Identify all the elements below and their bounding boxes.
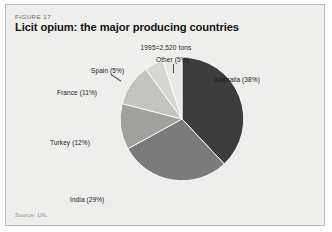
slice-label-india: India (29%) bbox=[70, 196, 104, 203]
slice-label-turkey: Turkey (12%) bbox=[50, 139, 90, 146]
slice-label-spain: Spain (5%) bbox=[91, 67, 124, 74]
slice-label-australia: Australia (38%) bbox=[214, 76, 260, 83]
figure-card: FIGURE 17 Licit opium: the major produci… bbox=[5, 4, 325, 226]
leader-line-other bbox=[173, 64, 174, 73]
pie-chart: Australia (38%) India (29%) Turkey (12%)… bbox=[6, 5, 325, 226]
slice-label-france: France (11%) bbox=[57, 89, 97, 96]
pie-chart-svg bbox=[119, 56, 245, 182]
source-note: Source: UN. bbox=[15, 212, 48, 218]
slice-label-other: Other (5%) bbox=[156, 56, 189, 63]
